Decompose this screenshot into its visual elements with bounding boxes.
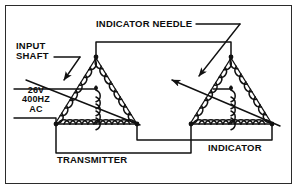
label-transmitter: TRANSMITTER: [57, 155, 127, 165]
indicator-coil-left: [191, 60, 234, 126]
wire-apex-interconnect: [96, 42, 231, 56]
label-indicator: INDICATOR: [208, 143, 262, 153]
input-shaft-pointer: [54, 57, 80, 80]
indicator-needle-line: [172, 80, 280, 126]
transmitter-rotor-node: [94, 86, 98, 90]
label-input-shaft: INPUT SHAFT: [16, 41, 49, 61]
indicator-terminal-apex: [229, 55, 234, 60]
indicator-rotor-node: [229, 86, 233, 90]
transmitter-terminal-apex: [94, 55, 99, 60]
label-power-source: 26V 400HZ AC: [22, 86, 50, 114]
transmitter-coil-left: [56, 60, 99, 126]
transmitter-unit: [54, 55, 140, 130]
synchro-system-diagram: INDICATOR NEEDLE INPUT SHAFT 26V 400HZ A…: [0, 0, 297, 189]
label-indicator-needle: INDICATOR NEEDLE: [96, 19, 192, 29]
